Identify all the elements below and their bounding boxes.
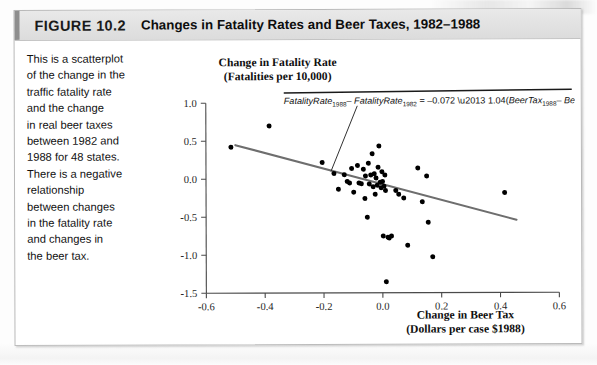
- x-axis-title: Change in Beer Tax: [417, 308, 515, 321]
- data-point-group: [228, 123, 507, 285]
- caption-line: and the change: [27, 100, 139, 117]
- data-point: [430, 254, 435, 259]
- eq-rhs-var: BeerTax: [509, 95, 543, 105]
- data-point: [228, 145, 233, 150]
- caption-line: traffic fatality rate: [27, 83, 139, 100]
- eq-slope: 1.04: [488, 95, 506, 105]
- x-tick-label: 0.6: [553, 300, 566, 311]
- x-tick-label: 0.0: [376, 301, 389, 312]
- eq-intercept: –0.072: [427, 96, 455, 106]
- regression-equation-annotation: FatalityRate1988– FatalityRate1982 = –0.…: [284, 89, 576, 108]
- eq-equals: =: [417, 96, 427, 106]
- data-point: [374, 175, 379, 180]
- scanned-page: FIGURE 10.2 Changes in Fatality Rates an…: [0, 0, 597, 365]
- y-tick-label: 1.0: [184, 98, 197, 109]
- data-point: [373, 192, 378, 197]
- data-point: [389, 234, 394, 239]
- y-tick-label: 0.0: [184, 174, 197, 185]
- data-point: [355, 163, 360, 168]
- data-point: [342, 172, 347, 177]
- y-tick-label: -1.0: [180, 250, 197, 261]
- data-point: [415, 165, 420, 170]
- y-tick-label: -0.5: [180, 212, 197, 223]
- scatter-plot: Change in Fatality Rate (Fatalities per …: [135, 43, 576, 340]
- data-point: [376, 165, 381, 170]
- data-point: [349, 166, 354, 171]
- y-axis-title: Change in Fatality Rate: [219, 56, 337, 69]
- eq-minus-2: \u2013: [455, 95, 488, 105]
- data-point: [370, 151, 375, 156]
- figure-number: FIGURE 10.2: [34, 17, 125, 33]
- data-point: [267, 123, 272, 128]
- caption-line: in the fatality rate: [27, 215, 139, 232]
- caption-line: relationship: [27, 182, 139, 199]
- data-point: [320, 160, 325, 165]
- caption-line: and changes in: [27, 231, 139, 248]
- eq-rhs-var2: BeerTax: [564, 95, 576, 105]
- caption-line: in real beer taxes: [27, 116, 139, 133]
- caption-line: of the change in the: [27, 67, 139, 84]
- data-point: [381, 234, 386, 239]
- data-point: [331, 171, 336, 176]
- x-tick-label: -0.2: [316, 301, 333, 312]
- eq-lhs-sub1: 1988: [332, 100, 347, 107]
- data-point: [420, 199, 425, 204]
- x-tick-label: -0.4: [257, 301, 275, 312]
- data-point: [351, 190, 356, 195]
- x-axis-units: (Dollars per case $1988): [406, 322, 525, 335]
- y-tick-label: -1.5: [181, 288, 198, 299]
- data-point: [502, 190, 507, 195]
- figure-header-bar: FIGURE 10.2 Changes in Fatality Rates an…: [14, 9, 580, 41]
- y-axis-units: (Fatalities per 10,000): [224, 70, 332, 83]
- scan-shadow: [0, 343, 597, 365]
- data-point: [365, 215, 370, 220]
- axis-frame: [206, 102, 560, 293]
- data-point: [382, 173, 387, 178]
- data-point: [380, 179, 385, 184]
- figure-caption: This is a scatterplot of the change in t…: [27, 51, 140, 265]
- equation-text: FatalityRate1988– FatalityRate1982 = –0.…: [284, 95, 576, 108]
- caption-line: There is a negative: [27, 165, 139, 182]
- equation-overline: [284, 89, 572, 93]
- eq-lhs-var2: FatalityRate: [354, 96, 403, 106]
- caption-line: the beer tax.: [27, 247, 139, 264]
- data-point: [359, 181, 364, 186]
- y-tick-label: 0.5: [184, 136, 197, 147]
- plot-canvas: Change in Fatality Rate (Fatalities per …: [135, 43, 576, 340]
- data-point: [401, 196, 406, 201]
- regression-line: [235, 144, 516, 220]
- data-point: [362, 196, 367, 201]
- caption-line: between 1982 and: [27, 133, 139, 150]
- caption-line: This is a scatterplot: [27, 51, 139, 68]
- data-point: [376, 144, 381, 149]
- data-point: [361, 167, 366, 172]
- data-point: [347, 181, 352, 186]
- caption-line: between changes: [27, 198, 139, 215]
- data-point: [363, 173, 368, 178]
- eq-rhs-sub1: 1988: [542, 100, 557, 107]
- data-point: [424, 173, 429, 178]
- annotation-leader-line: [331, 106, 358, 171]
- header-accent-bar: [14, 11, 19, 40]
- data-point: [336, 187, 341, 192]
- y-axis-line: [206, 103, 207, 293]
- data-point: [396, 192, 401, 197]
- figure-title: Changes in Fatality Rates and Beer Taxes…: [141, 16, 480, 32]
- data-point: [383, 188, 388, 193]
- eq-lhs-sub2: 1982: [403, 100, 418, 107]
- figure-container: FIGURE 10.2 Changes in Fatality Rates an…: [13, 8, 582, 346]
- y-axis-ticks: 1.00.50.0-0.5-1.0-1.5: [180, 98, 206, 299]
- eq-lhs-var: FatalityRate: [284, 96, 333, 106]
- data-point: [366, 161, 371, 166]
- data-point: [426, 220, 431, 225]
- x-tick-label: -0.6: [198, 301, 215, 312]
- caption-line: 1988 for 48 states.: [27, 149, 139, 166]
- data-point: [405, 243, 410, 248]
- data-point: [384, 279, 389, 284]
